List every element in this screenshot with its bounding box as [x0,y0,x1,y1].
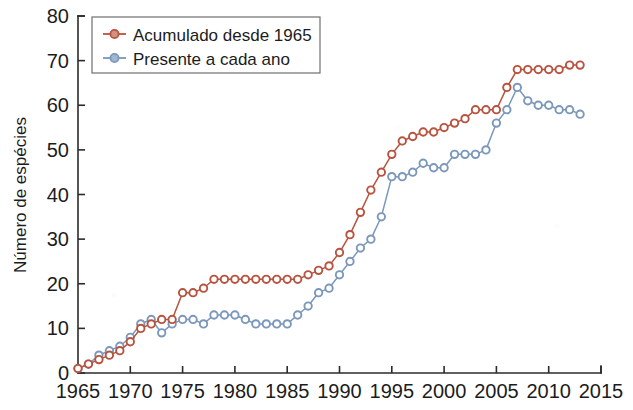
data-point [357,209,364,216]
data-point [200,285,207,292]
data-point [304,302,311,309]
data-point [461,115,468,122]
data-point [388,173,395,180]
data-point [409,133,416,140]
data-point [325,262,332,269]
data-point [472,106,479,113]
data-point [116,347,123,354]
x-tick-label: 2005 [474,380,519,402]
data-point [148,320,155,327]
x-tick-label: 1995 [370,380,415,402]
data-point [106,351,113,358]
data-point [555,66,562,73]
data-point [503,106,510,113]
data-point [346,231,353,238]
species-count-line-chart: 01020304050607080 1965197019751980198519… [0,0,633,410]
y-tick-label: 70 [47,50,69,72]
data-point [273,320,280,327]
data-point [242,276,249,283]
x-tick-label: 2000 [422,380,467,402]
y-tick-label: 30 [47,228,69,250]
data-point [210,276,217,283]
legend-label-present: Presente a cada ano [133,50,290,69]
data-point [242,316,249,323]
x-tick-label: 1985 [265,380,310,402]
data-point [137,325,144,332]
data-point [284,320,291,327]
data-point [315,289,322,296]
series-layer [74,61,583,372]
data-point [576,110,583,117]
data-point [168,316,175,323]
data-point [263,320,270,327]
data-point [231,276,238,283]
data-point [514,66,521,73]
data-point [524,97,531,104]
data-point [440,164,447,171]
data-point [472,151,479,158]
data-point [378,213,385,220]
data-point [85,360,92,367]
data-point [231,311,238,318]
data-point [493,119,500,126]
data-point [263,276,270,283]
data-point [367,235,374,242]
data-point [430,164,437,171]
data-point [294,276,301,283]
data-point [388,151,395,158]
y-tick-label: 10 [47,317,69,339]
data-point [576,61,583,68]
x-tick-label: 1990 [317,380,362,402]
data-point [430,128,437,135]
data-point [440,124,447,131]
data-point [419,128,426,135]
data-point [409,168,416,175]
data-point [482,106,489,113]
data-point [158,316,165,323]
data-point [399,173,406,180]
y-tick-label-group: 01020304050607080 [47,5,69,384]
data-point [503,84,510,91]
y-tick-label: 20 [47,273,69,295]
data-point [304,271,311,278]
data-point [200,320,207,327]
legend-label-accumulated: Acumulado desde 1965 [133,26,312,45]
data-point [95,356,102,363]
data-point [566,61,573,68]
x-tick-label: 1970 [108,380,153,402]
data-point [378,168,385,175]
data-point [221,276,228,283]
data-point [179,316,186,323]
data-point [545,66,552,73]
data-point [252,276,259,283]
data-point [399,137,406,144]
y-axis-title: Número de espécies [11,117,30,273]
data-point [419,160,426,167]
data-point [179,289,186,296]
data-point [461,151,468,158]
data-point [493,106,500,113]
legend-entry-accumulated[interactable]: Acumulado desde 1965 [103,26,312,45]
x-tick-label: 2015 [579,380,624,402]
y-tick-label: 40 [47,184,69,206]
data-point [189,289,196,296]
data-point [336,271,343,278]
data-point [346,258,353,265]
x-tick-label-group: 1965197019751980198519901995200020052010… [56,380,624,402]
data-point [545,102,552,109]
data-point [315,267,322,274]
data-point [127,338,134,345]
y-tick-label: 60 [47,94,69,116]
y-tick-label: 50 [47,139,69,161]
legend-marker-present [110,54,118,62]
data-point [482,146,489,153]
data-point [535,102,542,109]
y-tick-label: 80 [47,5,69,27]
data-point [357,244,364,251]
data-point [514,84,521,91]
x-tick-label: 1965 [56,380,101,402]
data-point [189,316,196,323]
data-point [294,311,301,318]
data-point [451,151,458,158]
data-point [367,186,374,193]
